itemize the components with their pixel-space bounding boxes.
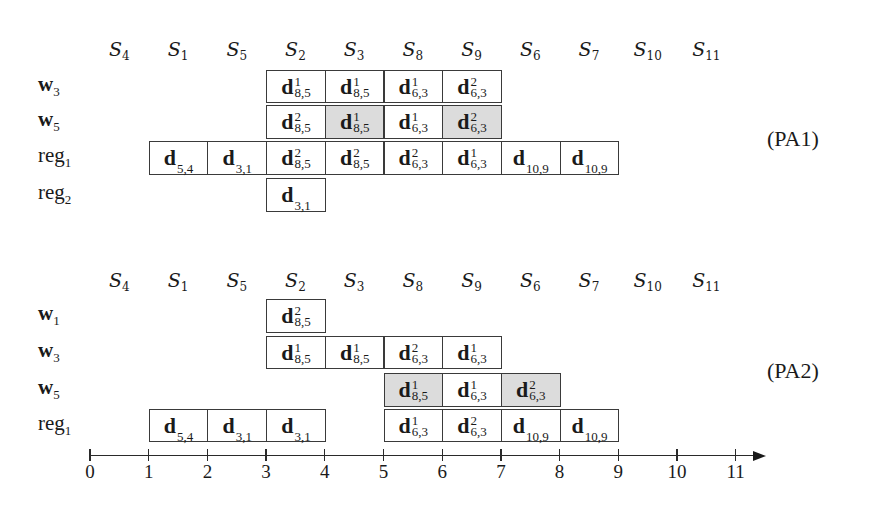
stage-label: S5 bbox=[226, 269, 247, 294]
shaded-data-cell: d26,3 bbox=[501, 373, 561, 407]
data-cell: d3,1 bbox=[207, 409, 267, 442]
shaded-data-cell: d18,5 bbox=[325, 105, 385, 139]
axis-tick bbox=[735, 449, 736, 461]
stage-label: S9 bbox=[461, 38, 482, 63]
cell-symbol: d bbox=[222, 145, 234, 171]
cell-indices: 10,9 bbox=[526, 152, 549, 174]
stage-label: S9 bbox=[461, 269, 482, 294]
cell-symbol: d bbox=[340, 74, 352, 100]
cell-indices: 16,3 bbox=[471, 342, 487, 364]
cell-subscript: 3,1 bbox=[294, 431, 310, 442]
cell-symbol: d bbox=[457, 145, 469, 171]
axis-tick-label: 9 bbox=[614, 461, 624, 483]
cell-indices: 5,4 bbox=[177, 152, 193, 174]
row-label-base: w bbox=[38, 107, 53, 131]
cell-indices: 18,5 bbox=[412, 379, 428, 401]
stage-label: S10 bbox=[633, 269, 661, 294]
stage-label-sub: 9 bbox=[474, 280, 482, 294]
data-cell: d16,3 bbox=[442, 336, 502, 369]
cell-subscript: 8,5 bbox=[294, 316, 310, 327]
data-cell: d28,5 bbox=[325, 141, 385, 175]
cell-indices: 16,3 bbox=[471, 379, 487, 401]
data-cell: d28,5 bbox=[266, 105, 326, 139]
row-label: w1 bbox=[38, 301, 60, 329]
row-label-sub: 3 bbox=[53, 350, 60, 365]
axis-tick-label: 1 bbox=[144, 461, 154, 483]
axis-tick bbox=[89, 449, 90, 461]
stage-label: S7 bbox=[579, 38, 600, 63]
cell-symbol: d bbox=[399, 413, 411, 439]
stage-label-sub: 2 bbox=[298, 49, 306, 63]
cell-indices: 18,5 bbox=[294, 342, 310, 364]
cell-subscript: 6,3 bbox=[412, 122, 428, 133]
cell-subscript: 6,3 bbox=[412, 87, 428, 98]
cell-symbol: d bbox=[513, 145, 525, 171]
row-label: reg2 bbox=[38, 180, 71, 208]
stage-label-sub: 7 bbox=[592, 49, 600, 63]
row-label-sub: 1 bbox=[53, 313, 60, 328]
cell-symbol: d bbox=[281, 340, 293, 366]
stage-label: S10 bbox=[633, 38, 661, 63]
row-label-sub: 2 bbox=[65, 192, 72, 207]
cell-indices: 28,5 bbox=[353, 147, 369, 169]
stage-label: S4 bbox=[109, 269, 130, 294]
stage-label-base: S bbox=[109, 38, 122, 60]
stage-label-base: S bbox=[168, 38, 181, 60]
stage-label-base: S bbox=[344, 38, 357, 60]
cell-indices: 3,1 bbox=[236, 420, 252, 442]
cell-symbol: d bbox=[399, 340, 411, 366]
cell-symbol: d bbox=[281, 182, 293, 208]
cell-subscript: 6,3 bbox=[471, 390, 487, 401]
cell-subscript: 3,1 bbox=[294, 200, 310, 211]
data-cell: d28,5 bbox=[266, 141, 326, 175]
cell-subscript: 6,3 bbox=[471, 426, 487, 437]
cell-indices: 28,5 bbox=[294, 111, 310, 133]
data-cell: d26,3 bbox=[442, 409, 502, 442]
data-cell: d16,3 bbox=[384, 409, 444, 442]
cell-indices: 26,3 bbox=[529, 379, 545, 401]
axis-tick bbox=[559, 449, 560, 461]
cell-indices: 16,3 bbox=[412, 415, 428, 437]
cell-subscript: 6,3 bbox=[412, 353, 428, 364]
cell-subscript: 6,3 bbox=[412, 158, 428, 169]
cell-subscript: 8,5 bbox=[294, 122, 310, 133]
axis-tick-label: 11 bbox=[727, 461, 745, 483]
row-label-base: w bbox=[38, 72, 53, 96]
stage-label: S1 bbox=[168, 269, 189, 294]
cell-indices: 18,5 bbox=[353, 342, 369, 364]
axis-tick-label: 8 bbox=[555, 461, 565, 483]
row-label-base: reg bbox=[38, 143, 65, 167]
stage-label-base: S bbox=[692, 269, 705, 291]
row-label-sub: 5 bbox=[53, 119, 60, 134]
cell-indices: 26,3 bbox=[412, 147, 428, 169]
cell-indices: 26,3 bbox=[471, 111, 487, 133]
cell-subscript: 10,9 bbox=[585, 163, 608, 174]
stage-label-sub: 10 bbox=[647, 49, 662, 63]
cell-indices: 3,1 bbox=[294, 420, 310, 442]
axis-tick bbox=[207, 449, 208, 461]
cell-subscript: 10,9 bbox=[526, 431, 549, 442]
cell-subscript: 6,3 bbox=[471, 87, 487, 98]
cell-subscript: 8,5 bbox=[294, 158, 310, 169]
cell-subscript: 8,5 bbox=[353, 158, 369, 169]
stage-label-sub: 7 bbox=[592, 280, 600, 294]
cell-symbol: d bbox=[281, 74, 293, 100]
stage-label-sub: 3 bbox=[357, 280, 365, 294]
data-cell: d16,3 bbox=[384, 70, 444, 103]
stage-label: S5 bbox=[226, 38, 247, 63]
row-label: reg1 bbox=[38, 143, 71, 171]
cell-indices: 10,9 bbox=[526, 420, 549, 442]
arrow-head-icon bbox=[753, 451, 766, 461]
cell-symbol: d bbox=[164, 145, 176, 171]
stage-label-base: S bbox=[520, 269, 533, 291]
row-label: w3 bbox=[38, 72, 60, 100]
stage-label-base: S bbox=[692, 38, 705, 60]
row-label-sub: 1 bbox=[65, 423, 72, 438]
stage-label-sub: 1 bbox=[181, 49, 189, 63]
axis-tick-label: 4 bbox=[320, 461, 330, 483]
cell-symbol: d bbox=[281, 413, 293, 439]
cell-symbol: d bbox=[399, 74, 411, 100]
cell-symbol: d bbox=[571, 145, 583, 171]
stage-label: S11 bbox=[692, 269, 720, 294]
axis-tick-label: 6 bbox=[437, 461, 447, 483]
